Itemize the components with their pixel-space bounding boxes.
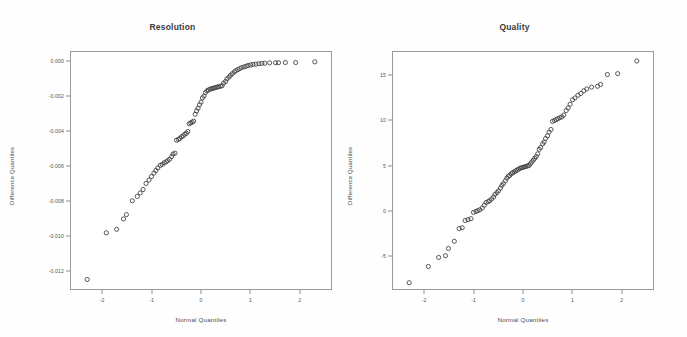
- y-tick-label: 15: [356, 72, 386, 78]
- y-tick-mark: [66, 131, 70, 132]
- x-tick-label: 2: [298, 297, 301, 303]
- y-tick-mark: [66, 96, 70, 97]
- y-tick-mark: [66, 166, 70, 167]
- x-tick-mark: [572, 290, 573, 294]
- x-tick-mark: [621, 290, 622, 294]
- x-tick-mark: [523, 290, 524, 294]
- chart-panel-quality: Quality Difference Quantiles 151050-5 -2…: [342, 0, 687, 337]
- chart-panel-resolution: Resolution Difference Quantiles 0.000-0.…: [0, 0, 345, 337]
- y-tick-mark: [388, 256, 392, 257]
- x-tick-mark: [250, 290, 251, 294]
- y-tick-label: -0.004: [18, 128, 64, 134]
- x-tick-label: 0: [522, 297, 525, 303]
- y-tick-mark: [66, 270, 70, 271]
- y-tick-label: 10: [356, 117, 386, 123]
- x-tick-mark: [473, 290, 474, 294]
- y-tick-label: 0: [356, 208, 386, 214]
- y-axis-title-resolution: Difference Quantiles: [9, 146, 15, 204]
- y-tick-mark: [388, 165, 392, 166]
- y-tick-label: -0.006: [18, 163, 64, 169]
- y-tick-label: -0.008: [18, 198, 64, 204]
- plot-area-quality: [392, 51, 654, 290]
- x-tick-label: 0: [200, 297, 203, 303]
- y-tick-label: -0.010: [18, 233, 64, 239]
- x-tick-label: 1: [571, 297, 574, 303]
- x-axis-title-resolution: Normal Quantiles: [70, 316, 332, 323]
- x-tick-mark: [424, 290, 425, 294]
- y-tick-mark: [66, 235, 70, 236]
- x-tick-label: -1: [471, 297, 476, 303]
- x-tick-label: 1: [249, 297, 252, 303]
- x-tick-mark: [102, 290, 103, 294]
- y-tick-mark: [66, 201, 70, 202]
- x-tick-label: -2: [422, 297, 427, 303]
- scatter-points-quality: [393, 52, 653, 289]
- y-tick-mark: [388, 210, 392, 211]
- y-tick-label: -0.012: [18, 268, 64, 274]
- x-axis-title-quality: Normal Quantiles: [392, 316, 654, 323]
- x-tick-label: -1: [149, 297, 154, 303]
- y-tick-label: 0.000: [18, 58, 64, 64]
- plot-area-resolution: [70, 51, 332, 290]
- x-tick-mark: [201, 290, 202, 294]
- figure-root: Resolution Difference Quantiles 0.000-0.…: [0, 0, 687, 337]
- y-tick-label: 5: [356, 163, 386, 169]
- scatter-points-resolution: [71, 52, 331, 289]
- y-tick-label: -0.002: [18, 93, 64, 99]
- x-tick-label: -2: [100, 297, 105, 303]
- y-tick-mark: [66, 61, 70, 62]
- y-tick-label: -5: [356, 253, 386, 259]
- chart-title-resolution: Resolution: [0, 22, 345, 32]
- x-tick-mark: [299, 290, 300, 294]
- y-tick-mark: [388, 74, 392, 75]
- x-tick-label: 2: [620, 297, 623, 303]
- x-tick-mark: [151, 290, 152, 294]
- chart-title-quality: Quality: [342, 22, 687, 32]
- y-axis-title-quality: Difference Quantiles: [347, 146, 353, 204]
- y-tick-mark: [388, 120, 392, 121]
